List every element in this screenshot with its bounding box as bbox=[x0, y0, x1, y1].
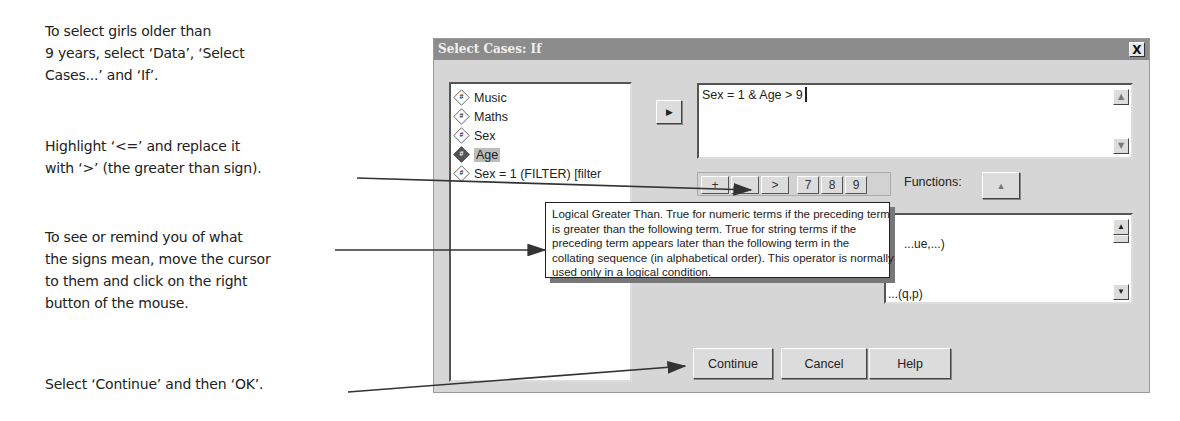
key-8[interactable]: 8 bbox=[821, 176, 843, 194]
annotation-line: 9 years, select ‘Data’, ‘Select bbox=[45, 42, 245, 64]
paste-function-button[interactable]: ▲ bbox=[982, 172, 1020, 199]
variable-item-music[interactable]: # Music bbox=[451, 88, 630, 107]
annotation-line: to them and click on the right bbox=[45, 270, 270, 292]
tooltip-line: Logical Greater Than. True for numeric t… bbox=[552, 207, 883, 222]
right-arrow-icon: ▶ bbox=[666, 107, 673, 117]
scroll-thumb[interactable] bbox=[1113, 235, 1129, 243]
variable-item-filter[interactable]: # Sex = 1 (FILTER) [filter bbox=[451, 164, 630, 183]
annotation-line: Highlight ‘<=’ and replace it bbox=[45, 135, 261, 157]
annotation-step3: To see or remind you of what the signs m… bbox=[45, 226, 270, 314]
key-greater-than[interactable]: > bbox=[761, 176, 789, 194]
tooltip-line: preceding term appears later than the fo… bbox=[552, 236, 883, 251]
annotation-line: with ‘>’ (the greater than sign). bbox=[45, 157, 261, 179]
variable-item-age[interactable]: # Age bbox=[451, 145, 630, 164]
variable-label: Sex bbox=[474, 129, 496, 143]
key-plus[interactable]: + bbox=[701, 176, 729, 194]
continue-button[interactable]: Continue bbox=[693, 348, 773, 379]
functions-list[interactable]: ...ue,...) ...p ...(q,p) ▲ ▼ bbox=[884, 213, 1133, 304]
tooltip-line: is greater than the following term. True… bbox=[552, 222, 883, 237]
function-item[interactable]: ...ue,...) bbox=[904, 237, 945, 251]
variable-label: Maths bbox=[474, 110, 508, 124]
dialog-title: Select Cases: If bbox=[438, 42, 541, 56]
expression-input[interactable]: Sex = 1 & Age > 9 ▲ ▼ bbox=[697, 83, 1133, 159]
variable-item-sex[interactable]: # Sex bbox=[451, 126, 630, 145]
title-bar: Select Cases: If X bbox=[434, 39, 1149, 60]
function-item[interactable]: ...(q,p) bbox=[888, 287, 923, 301]
annotation-line: the signs mean, move the cursor bbox=[45, 248, 270, 270]
expression-text: Sex = 1 & Age > 9 bbox=[702, 88, 803, 102]
key-7[interactable]: 7 bbox=[797, 176, 819, 194]
annotation-line: To see or remind you of what bbox=[45, 226, 270, 248]
cancel-button[interactable]: Cancel bbox=[781, 348, 867, 379]
operator-tooltip: Logical Greater Than. True for numeric t… bbox=[545, 202, 890, 278]
annotation-line: button of the mouse. bbox=[45, 292, 270, 314]
move-variable-button[interactable]: ▶ bbox=[656, 100, 682, 124]
up-arrow-icon: ▲ bbox=[997, 181, 1006, 191]
scroll-down-button[interactable]: ▼ bbox=[1113, 138, 1129, 154]
numeric-variable-icon: # bbox=[453, 127, 470, 144]
tooltip-line: collating sequence (in alphabetical orde… bbox=[552, 251, 883, 266]
numeric-variable-icon: # bbox=[453, 165, 470, 182]
numeric-variable-icon: # bbox=[453, 89, 470, 106]
select-cases-if-dialog: Select Cases: If X # Music # Maths # Sex… bbox=[433, 38, 1150, 393]
functions-label: Functions: bbox=[904, 175, 962, 189]
scroll-down-button[interactable]: ▼ bbox=[1113, 284, 1129, 300]
annotation-step2: Highlight ‘<=’ and replace it with ‘>’ (… bbox=[45, 135, 261, 179]
numeric-variable-icon: # bbox=[453, 108, 470, 125]
help-button[interactable]: Help bbox=[869, 348, 951, 379]
close-button[interactable]: X bbox=[1129, 42, 1145, 57]
numeric-variable-icon: # bbox=[453, 146, 470, 163]
annotation-line: To select girls older than bbox=[45, 20, 245, 42]
annotation-step1: To select girls older than 9 years, sele… bbox=[45, 20, 245, 86]
variable-label: Sex = 1 (FILTER) [filter bbox=[474, 167, 601, 181]
operator-keypad: + ~ > 7 8 9 bbox=[697, 172, 891, 196]
annotation-line: Select ‘Continue’ and then ‘OK’. bbox=[45, 373, 263, 395]
variable-item-maths[interactable]: # Maths bbox=[451, 107, 630, 126]
scroll-up-button[interactable]: ▲ bbox=[1113, 89, 1129, 105]
variable-label: Music bbox=[474, 91, 507, 105]
annotation-step4: Select ‘Continue’ and then ‘OK’. bbox=[45, 373, 263, 395]
key-operator[interactable]: ~ bbox=[731, 176, 759, 194]
text-caret bbox=[805, 87, 807, 102]
scroll-up-button[interactable]: ▲ bbox=[1113, 219, 1129, 235]
tooltip-line: used only in a logical condition. bbox=[552, 265, 883, 280]
variable-label: Age bbox=[474, 148, 500, 162]
key-9[interactable]: 9 bbox=[845, 176, 867, 194]
annotation-line: Cases...’ and ‘If’. bbox=[45, 64, 245, 86]
